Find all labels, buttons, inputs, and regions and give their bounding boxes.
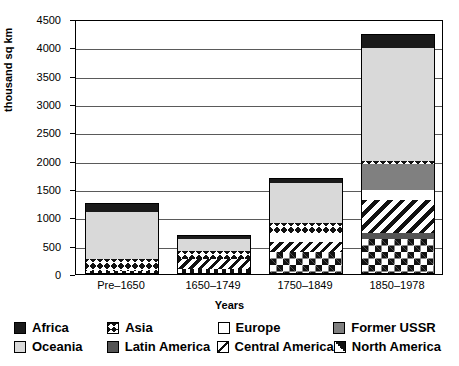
bar-segment-asia[interactable] [85,258,159,271]
legend-label: Europe [236,321,281,334]
legend-swatch-icon [333,322,345,334]
chart-legend: AfricaAsiaEuropeFormer USSROceaniaLatin … [14,318,454,356]
bar-segment-latin-america[interactable] [361,232,435,239]
legend-row: AfricaAsiaEuropeFormer USSR [14,318,454,337]
chart-figure: thousand sq km 0500100015002000250030003… [0,0,459,366]
bar-segment-africa[interactable] [85,203,159,213]
y-axis-tick-label: 4500 [25,15,61,25]
bar-segment-oceania[interactable] [361,47,435,161]
legend-item-former-ussr[interactable]: Former USSR [333,321,454,334]
legend-label: Asia [125,321,152,334]
bar-stack[interactable] [177,19,251,274]
y-axis-tick-mark [70,275,75,276]
bar-segment-asia[interactable] [269,222,343,234]
legend-swatch-icon [218,322,230,334]
legend-swatch-icon [107,341,119,353]
bar-segment-africa[interactable] [269,178,343,183]
bar-stack[interactable] [361,19,435,274]
legend-row: OceaniaLatin AmericaCentral AmericaNorth… [14,337,454,356]
legend-swatch-icon [14,322,26,334]
legend-label: Africa [32,321,69,334]
legend-item-latin-america[interactable]: Latin America [107,340,217,353]
x-axis-tick-label: 1750–1849 [255,279,355,291]
bar-segment-asia[interactable] [177,250,251,259]
bar-segment-central-america[interactable] [361,199,435,232]
bar-segment-europe[interactable] [269,233,343,243]
x-axis-tick-label: 1850–1978 [347,279,447,291]
legend-item-africa[interactable]: Africa [14,321,107,334]
y-axis-tick-label: 3000 [25,100,61,110]
legend-swatch-icon [334,341,346,353]
plot-area-wrapper: thousand sq km 0500100015002000250030003… [0,0,459,300]
x-axis-tick-label: 1650–1749 [163,279,263,291]
legend-swatch-icon [14,341,26,353]
legend-item-central-america[interactable]: Central America [217,340,334,353]
bar-segment-north-america[interactable] [361,238,435,274]
y-axis-tick-label: 2500 [25,128,61,138]
legend-item-north-america[interactable]: North America [334,340,454,353]
plot-axes-frame [75,20,443,275]
legend-item-asia[interactable]: Asia [107,321,217,334]
y-axis-tick-label: 3500 [25,72,61,82]
legend-label: Central America [235,340,334,353]
legend-swatch-icon [217,341,229,353]
bar-segment-oceania[interactable] [85,211,159,258]
y-axis-title-text: thousand sq km [2,96,14,112]
bar-segment-oceania[interactable] [177,238,251,250]
y-axis-tick-label: 4000 [25,43,61,53]
legend-label: Former USSR [351,321,436,334]
y-axis-tick-label: 0 [25,270,61,280]
x-axis-tick-label: Pre–1650 [71,279,171,291]
y-axis-tick-label: 1000 [25,213,61,223]
bar-stack[interactable] [269,19,343,274]
y-axis-tick-label: 1500 [25,185,61,195]
legend-label: Latin America [125,340,211,353]
bar-stack[interactable] [85,19,159,274]
bar-segment-central-america[interactable] [269,241,343,252]
legend-label: Oceania [32,340,83,353]
bar-series-group [76,21,442,274]
legend-item-oceania[interactable]: Oceania [14,340,107,353]
bar-segment-north-america[interactable] [269,251,343,274]
bar-segment-central-america[interactable] [177,258,251,270]
legend-item-europe[interactable]: Europe [218,321,334,334]
y-axis-title: thousand sq km [2,80,14,96]
bar-segment-oceania[interactable] [269,182,343,223]
x-axis-title: Years [0,299,459,311]
bar-segment-former-ussr[interactable] [361,163,435,190]
legend-label: North America [352,340,441,353]
bar-segment-africa[interactable] [177,235,251,239]
y-axis-tick-label: 2000 [25,157,61,167]
y-axis-tick-label: 500 [25,242,61,252]
legend-swatch-icon [107,322,119,334]
bar-segment-africa[interactable] [361,34,435,47]
bar-segment-europe[interactable] [361,189,435,200]
